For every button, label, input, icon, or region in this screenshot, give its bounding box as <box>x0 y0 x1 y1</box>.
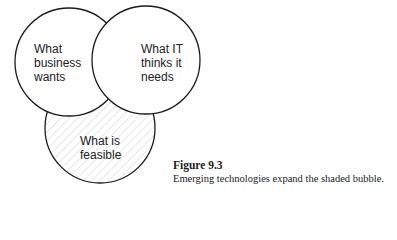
figure-caption: Figure 9.3 Emerging technologies expand … <box>173 159 384 185</box>
figure-caption-text: Emerging technologies expand the shaded … <box>173 172 384 185</box>
label-what-business-wants: What business wants <box>34 42 81 84</box>
label-what-it-thinks-it-needs: What IT thinks it needs <box>141 42 183 84</box>
label-what-is-feasible: What is feasible <box>80 134 121 162</box>
figure-number: Figure 9.3 <box>173 159 384 172</box>
